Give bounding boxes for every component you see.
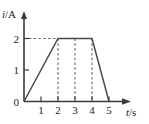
y-axis-title-unit: /A: [5, 8, 16, 20]
x-axis-title-unit: /s: [129, 106, 136, 118]
guide-vertical-group: [58, 39, 92, 102]
y-tick-label-2: 2: [14, 33, 20, 45]
x-tick-label-1: 1: [38, 104, 44, 116]
y-axis-title: i/A: [2, 8, 16, 20]
y-tick-label-1: 1: [14, 64, 20, 76]
x-axis-arrow-icon: [122, 98, 131, 105]
trapezoid-current-curve: [24, 39, 109, 102]
x-tick-label-5: 5: [106, 104, 112, 116]
x-tick-label-2: 2: [55, 104, 61, 116]
origin-label: 0: [14, 96, 20, 108]
x-tick-label-3: 3: [72, 104, 78, 116]
chart-screenshot: 2 1 0 1 2 3 4 5 i/A t/s: [0, 0, 149, 124]
y-axis-arrow-icon: [21, 11, 27, 19]
current-axis: [21, 11, 29, 102]
current-time-graph: 2 1 0 1 2 3 4 5 i/A t/s: [0, 0, 149, 124]
x-axis-title: t/s: [126, 106, 136, 118]
x-tick-label-4: 4: [89, 104, 95, 116]
data-series-current: [24, 39, 109, 102]
